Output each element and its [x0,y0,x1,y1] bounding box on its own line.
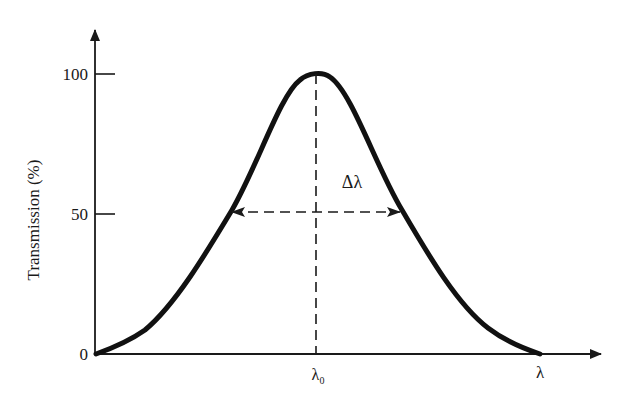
center-wavelength-label: λ0 [312,366,325,386]
y-tick-label-50: 50 [71,205,88,224]
y-axis-label: Transmission (%) [24,160,43,281]
chart-canvas: 100 50 0 Transmission (%) Δλ λ0 λ [0,0,625,396]
fwhm-label: Δλ [342,172,363,192]
x-axis-label: λ [536,363,545,382]
y-tick-label-0: 0 [80,345,89,364]
y-tick-label-100: 100 [63,65,89,84]
transmission-curve [96,73,540,354]
